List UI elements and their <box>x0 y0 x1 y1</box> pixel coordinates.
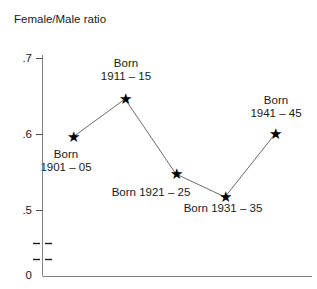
data-point-marker-born-1931-35: ★ <box>219 189 232 205</box>
data-markers: ★ ★ ★ ★ ★ <box>67 91 282 205</box>
female-male-ratio-chart: Female/Male ratio .7 .6 .5 0 Born 1901 –… <box>0 0 317 289</box>
data-point-marker-born-1901-05: ★ <box>67 129 80 145</box>
data-point-marker-born-1911-15: ★ <box>119 91 132 107</box>
data-point-marker-born-1921-25: ★ <box>170 166 183 182</box>
y-axis-ticks <box>36 59 43 211</box>
plot-area: ★ ★ ★ ★ ★ <box>0 0 317 289</box>
data-point-marker-born-1941-45: ★ <box>269 126 282 142</box>
data-line <box>73 99 275 197</box>
